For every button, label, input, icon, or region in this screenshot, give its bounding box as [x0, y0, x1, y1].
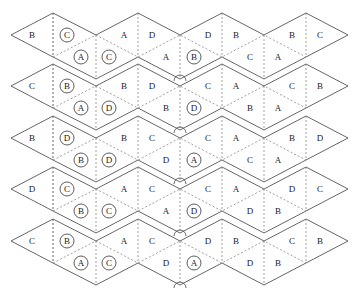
triangle-label: B [289, 133, 295, 143]
triangle-label: C [289, 81, 295, 91]
band-bottom-edge [11, 189, 348, 233]
triangle-label: B [163, 103, 169, 113]
triangle-label: C [247, 52, 253, 62]
triangle-label: C [149, 236, 155, 246]
triangle-label: B [191, 52, 197, 62]
triangle-label: C [317, 30, 323, 40]
triangle-label: A [233, 184, 240, 194]
triangle-label: D [163, 155, 170, 165]
band-bottom-edge [11, 241, 348, 285]
dashed-diagonal [53, 138, 306, 160]
band-bottom-edge [11, 35, 348, 79]
triangle-label: B [78, 206, 84, 216]
dashed-subdivisions [53, 13, 306, 285]
triangle-label: B [64, 81, 70, 91]
triangle-label: D [163, 258, 170, 268]
triangle-label: B [317, 236, 323, 246]
triangle-label: C [205, 81, 211, 91]
triangle-label: A [275, 155, 282, 165]
triangle-label: D [29, 184, 36, 194]
triangle-label: A [121, 30, 128, 40]
triangle-label: A [191, 258, 198, 268]
triangle-label: C [106, 258, 112, 268]
triangle-label: B [29, 30, 35, 40]
diamond-band-diagram: BCADDBBCACABCACBBDCACBADBDBABDBCCABDBDDA… [0, 0, 359, 295]
triangle-label: D [205, 236, 212, 246]
triangle-label: D [289, 184, 296, 194]
triangle-label: B [78, 155, 84, 165]
triangle-label: A [275, 52, 282, 62]
triangle-label: D [64, 133, 71, 143]
triangle-label: A [233, 133, 240, 143]
triangle-label: B [64, 236, 70, 246]
dashed-diagonal [53, 35, 306, 57]
triangle-label: A [275, 103, 282, 113]
dashed-diagonal [53, 189, 306, 211]
triangle-label: B [317, 81, 323, 91]
band-outlines [11, 13, 348, 285]
triangle-label: A [121, 184, 128, 194]
band-bottom-edge [11, 86, 348, 130]
triangle-label: C [149, 133, 155, 143]
triangle-label: B [233, 30, 239, 40]
triangle-label: C [106, 52, 112, 62]
triangle-label: A [121, 236, 128, 246]
triangle-label: C [29, 236, 35, 246]
triangle-labels: BCADDBBCACABCACBBDCACBADBDBABDBCCABDBDDA… [29, 28, 324, 270]
triangle-label: A [78, 52, 85, 62]
triangle-label: C [289, 236, 295, 246]
triangle-label: C [247, 155, 253, 165]
triangle-label: B [289, 30, 295, 40]
triangle-label: C [64, 30, 70, 40]
triangle-label: B [121, 81, 127, 91]
triangle-label: A [191, 155, 198, 165]
triangle-label: C [317, 184, 323, 194]
triangle-label: D [106, 155, 113, 165]
triangle-label: A [163, 52, 170, 62]
triangle-label: D [247, 258, 254, 268]
triangle-label: D [317, 133, 324, 143]
triangle-label: C [106, 206, 112, 216]
triangle-label: D [106, 103, 113, 113]
triangle-label: D [247, 206, 254, 216]
triangle-label: A [163, 206, 170, 216]
triangle-label: C [205, 133, 211, 143]
triangle-label: B [247, 103, 253, 113]
triangle-label: A [78, 258, 85, 268]
triangle-label: D [149, 30, 156, 40]
triangle-label: C [29, 81, 35, 91]
triangle-label: D [191, 103, 198, 113]
triangle-label: A [233, 81, 240, 91]
triangle-label: B [29, 133, 35, 143]
triangle-label: B [275, 258, 281, 268]
triangle-label: C [64, 184, 70, 194]
triangle-label: C [149, 184, 155, 194]
triangle-label: D [149, 81, 156, 91]
band-bottom-edge [11, 138, 348, 182]
triangle-label: B [275, 206, 281, 216]
dashed-diagonal [53, 241, 306, 263]
dashed-diagonal [53, 86, 306, 108]
triangle-label: D [191, 206, 198, 216]
band-top-edge [11, 13, 348, 35]
triangle-label: C [205, 184, 211, 194]
triangle-label: B [233, 236, 239, 246]
triangle-label: B [121, 133, 127, 143]
triangle-label: D [205, 30, 212, 40]
triangle-label: A [78, 103, 85, 113]
